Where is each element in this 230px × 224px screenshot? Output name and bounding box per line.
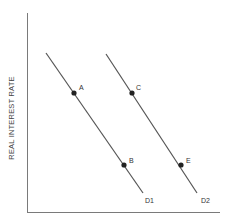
- point-c: [129, 90, 134, 95]
- curve-d2: [106, 54, 197, 193]
- curve-d1: [46, 53, 143, 193]
- curve-d2-label: D2: [201, 197, 210, 204]
- y-axis-label: REAL INTEREST RATE: [7, 76, 16, 159]
- point-a: [71, 90, 76, 95]
- curve-d1-label: D1: [145, 197, 154, 204]
- point-e-label: E: [186, 157, 191, 164]
- point-a-label: A: [79, 84, 84, 91]
- point-e: [178, 162, 183, 167]
- point-b-label: B: [129, 157, 134, 164]
- point-b: [121, 162, 126, 167]
- point-c-label: C: [136, 84, 141, 91]
- demand-shift-diagram: REAL INTEREST RATE A B C E D1 D2: [0, 0, 230, 224]
